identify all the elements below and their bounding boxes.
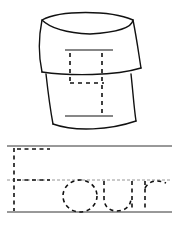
- cup-band-right: [133, 20, 141, 68]
- letter-r: [145, 181, 166, 211]
- handwriting-lines: [7, 146, 172, 212]
- numeral-four-tracing: [65, 50, 113, 116]
- letter-o: [63, 180, 97, 212]
- cup-rim: [42, 13, 133, 35]
- letter-u: [104, 181, 132, 211]
- cup-base: [53, 121, 136, 129]
- worksheet-drawing: [0, 0, 179, 229]
- worksheet: Four: [0, 0, 179, 229]
- cup-body-left: [46, 74, 53, 124]
- cup-band-bottom: [42, 68, 141, 75]
- cup-body-right: [131, 74, 136, 121]
- cup-illustration: [39, 13, 141, 130]
- cup-band-left: [39, 20, 42, 72]
